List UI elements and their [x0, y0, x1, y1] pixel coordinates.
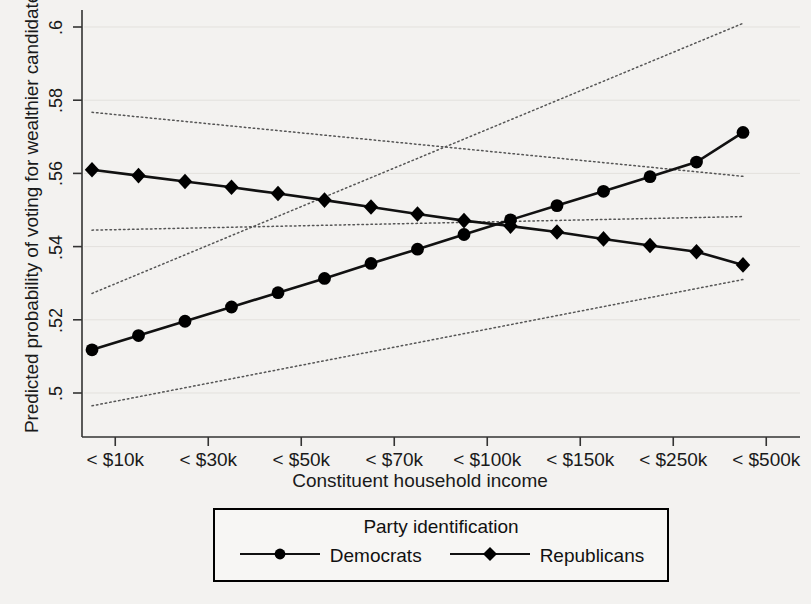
legend: Party identification DemocratsRepublican… [213, 508, 669, 582]
y-tick-label: .58 [46, 81, 67, 121]
x-tick-label: < $250k [639, 449, 707, 471]
x-tick-label: < $500k [732, 449, 800, 471]
x-tick-label: < $70k [365, 449, 423, 471]
legend-label: Republicans [540, 545, 645, 567]
y-tick-label: .6 [46, 8, 67, 48]
y-axis-title: Predicted probability of voting for weal… [21, 13, 43, 433]
x-tick-label: < $50k [272, 449, 330, 471]
series-markers [85, 126, 750, 356]
x-axis-title: Constituent household income [80, 470, 760, 492]
legend-item-republicans[interactable]: Republicans [448, 544, 645, 568]
x-tick-label: < $30k [179, 449, 237, 471]
circle-marker-icon [238, 544, 322, 568]
chart-figure: Predicted probability of voting for weal… [0, 0, 811, 604]
legend-title: Party identification [215, 516, 667, 538]
y-tick-label: .56 [46, 154, 67, 194]
x-tick-label: < $10k [86, 449, 144, 471]
diamond-marker-icon [448, 544, 532, 568]
legend-entries: DemocratsRepublicans [215, 544, 667, 568]
x-tick-label: < $150k [546, 449, 614, 471]
x-tick-label: < $100k [453, 449, 521, 471]
y-tick-label: .5 [46, 374, 67, 414]
y-tick-label: .54 [46, 227, 67, 267]
legend-item-democrats[interactable]: Democrats [238, 544, 422, 568]
legend-label: Democrats [330, 545, 422, 567]
y-tick-label: .52 [46, 300, 67, 340]
